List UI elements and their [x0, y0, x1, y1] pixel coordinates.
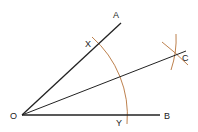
ray-oa — [22, 23, 121, 115]
label-c: C — [182, 53, 189, 63]
label-a: A — [113, 10, 119, 20]
ray-oc — [22, 51, 186, 115]
label-y: Y — [116, 118, 122, 128]
label-o: O — [10, 111, 17, 121]
angle-bisector-diagram: O A B C X Y — [0, 0, 198, 132]
label-x: X — [85, 39, 91, 49]
label-b: B — [164, 111, 170, 121]
